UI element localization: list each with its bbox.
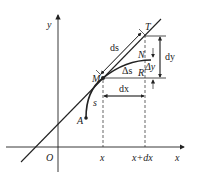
tangent-line xyxy=(21,19,161,162)
dy-label: dy xyxy=(165,52,175,62)
origin-label: O xyxy=(46,153,53,163)
point-r-label: R xyxy=(138,68,144,78)
y-axis-label: y xyxy=(47,20,51,30)
point-a-label: A xyxy=(77,116,83,126)
ds-label: ds xyxy=(110,43,119,53)
delta-y-label: Δy xyxy=(145,62,155,72)
x-axis-label: x xyxy=(175,153,179,163)
x-dx-tick-label: x+dx xyxy=(132,153,153,163)
point-t-label: T xyxy=(145,22,151,32)
dx-label: dx xyxy=(119,84,129,94)
s-label: s xyxy=(93,98,97,108)
point-n-label: N xyxy=(138,50,145,60)
point-a-dot xyxy=(84,116,88,120)
arc-length-diagram: y O x x x+dx M A T N R ds Δs s dx dy Δy xyxy=(0,0,200,182)
delta-s-label: Δs xyxy=(122,66,132,76)
point-m-label: M xyxy=(92,74,100,84)
x-tick-label: x xyxy=(100,153,104,163)
